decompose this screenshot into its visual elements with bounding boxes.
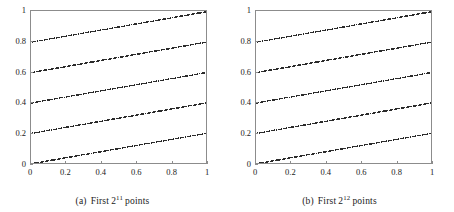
y-tick-mark [255, 133, 258, 134]
subfigure-a: 00.20.40.60.8100.20.40.60.81 (a)First211… [0, 0, 227, 212]
y-tick-label: 0.8 [6, 37, 26, 46]
y-tick-mark [255, 41, 258, 42]
y-tick-mark [30, 164, 33, 165]
plot-frame-b [255, 10, 432, 164]
x-tick-mark [397, 161, 398, 164]
x-tick-label: 0 [28, 168, 32, 177]
x-tick-label: 0 [253, 168, 257, 177]
x-tick-label: 0.8 [391, 168, 402, 177]
y-tick-label: 1 [231, 6, 251, 15]
scatter-points-a [31, 11, 206, 163]
y-tick-mark [255, 10, 258, 11]
caption-a-suffix: points [125, 196, 149, 206]
caption-b-exponent: 12 [343, 194, 350, 201]
x-tick-label: 0.8 [166, 168, 177, 177]
y-tick-label: 0.6 [6, 67, 26, 76]
x-tick-label: 0.4 [95, 168, 106, 177]
x-tick-mark [172, 161, 173, 164]
x-tick-mark [65, 161, 66, 164]
figure-two-panel-scatter: 00.20.40.60.8100.20.40.60.81 (a)First211… [0, 0, 454, 212]
plot-area-b: 00.20.40.60.8100.20.40.60.81 [227, 0, 454, 180]
caption-a-tag: (a) [76, 196, 87, 206]
y-tick-label: 0.8 [231, 37, 251, 46]
y-tick-mark [30, 133, 33, 134]
subfigure-b: 00.20.40.60.8100.20.40.60.81 (b)First212… [227, 0, 454, 212]
x-tick-label: 0.2 [285, 168, 296, 177]
caption-b-prefix: First [318, 196, 336, 206]
x-tick-label: 0.6 [131, 168, 142, 177]
y-tick-mark [30, 72, 33, 73]
x-tick-mark [432, 161, 433, 164]
y-tick-label: 0.4 [6, 98, 26, 107]
caption-a-prefix: First [91, 196, 109, 206]
caption-b-tag: (b) [302, 196, 314, 206]
y-tick-label: 0.2 [6, 129, 26, 138]
x-tick-mark [326, 161, 327, 164]
y-tick-label: 0.4 [231, 98, 251, 107]
y-tick-mark [30, 10, 33, 11]
caption-b: (b)First212points [227, 196, 454, 206]
plot-frame-a [30, 10, 207, 164]
x-tick-mark [290, 161, 291, 164]
x-tick-mark [361, 161, 362, 164]
x-tick-label: 1 [205, 168, 209, 177]
x-tick-label: 0.4 [320, 168, 331, 177]
x-tick-mark [207, 161, 208, 164]
y-tick-mark [30, 41, 33, 42]
y-tick-mark [255, 102, 258, 103]
y-tick-mark [255, 72, 258, 73]
scatter-points-b [256, 11, 431, 163]
y-tick-label: 0 [231, 160, 251, 169]
x-tick-mark [101, 161, 102, 164]
caption-a-exponent: 11 [116, 194, 123, 201]
y-tick-mark [30, 102, 33, 103]
x-tick-label: 0.6 [356, 168, 367, 177]
caption-a: (a)First211points [0, 196, 227, 206]
x-tick-label: 1 [430, 168, 434, 177]
y-tick-mark [255, 164, 258, 165]
x-tick-label: 0.2 [60, 168, 71, 177]
y-tick-label: 0.6 [231, 67, 251, 76]
y-tick-label: 0 [6, 160, 26, 169]
plot-area-a: 00.20.40.60.8100.20.40.60.81 [0, 0, 227, 180]
y-tick-label: 1 [6, 6, 26, 15]
caption-b-suffix: points [352, 196, 376, 206]
y-tick-label: 0.2 [231, 129, 251, 138]
x-tick-mark [136, 161, 137, 164]
